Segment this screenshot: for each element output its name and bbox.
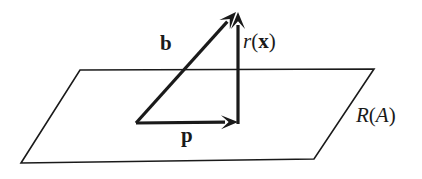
vector-b-shaft xyxy=(136,22,227,123)
projection-diagram: b p r(x) R(A) xyxy=(0,0,422,179)
vector-r-label: r(x) xyxy=(243,31,276,52)
residual-close-paren: ) xyxy=(269,29,276,53)
vector-b xyxy=(136,12,236,123)
residual-argument: x xyxy=(258,29,269,53)
vector-p-label: p xyxy=(181,125,193,146)
range-plane-label: R(A) xyxy=(356,105,396,126)
diagram-canvas xyxy=(0,0,422,179)
range-function-name: R xyxy=(356,103,369,127)
range-open-paren: ( xyxy=(369,103,376,127)
range-plane xyxy=(21,69,374,163)
vector-b-label: b xyxy=(160,33,172,54)
range-argument: A xyxy=(376,103,389,127)
range-close-paren: ) xyxy=(389,103,396,127)
residual-function-name: r xyxy=(243,29,251,53)
